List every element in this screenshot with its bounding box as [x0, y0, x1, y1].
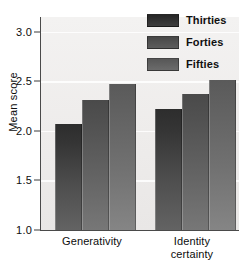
bar-generativity-forties	[82, 100, 109, 230]
legend-label: Thirties	[186, 14, 227, 26]
legend-swatch	[147, 14, 179, 27]
y-axis-tick-label: 1.0	[0, 224, 32, 236]
y-axis-tick-label: 2.5	[0, 75, 32, 87]
bar-generativity-thirties	[55, 124, 82, 230]
y-axis-tick-label: 3.0	[0, 26, 32, 38]
x-axis-line	[40, 230, 239, 231]
x-axis-label-line: certainty	[146, 248, 238, 260]
y-axis-tick-labels: 1.01.52.02.53.0	[0, 0, 40, 259]
bar-edge	[55, 124, 56, 230]
bar-identity-certainty-fifties	[209, 80, 236, 230]
x-axis-label-generativity: Generativity	[44, 235, 140, 248]
bar-identity-certainty-thirties	[155, 109, 182, 230]
legend-label: Fifties	[186, 58, 219, 70]
bar-edge	[209, 80, 210, 230]
legend-swatch	[147, 36, 179, 49]
x-axis-label-line: Generativity	[44, 235, 140, 248]
y-axis-tick-label: 1.5	[0, 174, 32, 186]
bar-edge	[182, 94, 183, 230]
legend-swatch	[147, 58, 179, 71]
y-axis-tick-label: 2.0	[0, 125, 32, 137]
bar-edge	[235, 80, 236, 230]
bar-edge	[155, 109, 156, 230]
legend-label: Forties	[186, 36, 223, 48]
bar-edge	[135, 84, 136, 230]
legend-item-fifties: Fifties	[147, 55, 239, 73]
bar-edge	[109, 84, 110, 230]
x-axis-label-line: Identity	[146, 235, 238, 248]
x-axis-label-identity-certainty: Identitycertainty	[146, 235, 238, 260]
bar-edge	[82, 100, 83, 230]
bar-generativity-fifties	[109, 84, 136, 230]
bar-identity-certainty-forties	[182, 94, 209, 230]
legend-item-thirties: Thirties	[147, 11, 239, 29]
legend: ThirtiesFortiesFifties	[147, 11, 239, 77]
legend-item-forties: Forties	[147, 33, 239, 51]
